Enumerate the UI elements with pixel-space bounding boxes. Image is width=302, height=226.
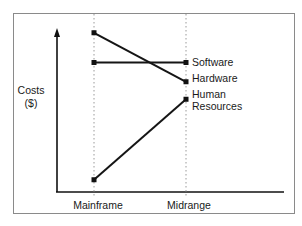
x-tick-midrange: Midrange: [167, 199, 211, 211]
data-point-software-midrange: [184, 60, 189, 65]
data-point-hardware-mainframe: [92, 30, 97, 35]
x-tick-mainframe: Mainframe: [73, 199, 123, 211]
data-point-software-mainframe: [92, 60, 97, 65]
chart-frame: [14, 14, 295, 214]
y-axis-arrow-icon: [54, 28, 60, 37]
series-label-human-resources-line2: Resources: [192, 100, 242, 112]
y-axis-label-line2: ($): [25, 97, 38, 109]
series-label-software: Software: [192, 56, 234, 68]
series-line-hardware: [94, 33, 186, 82]
series-label-human-resources-line1: Human: [192, 88, 226, 100]
data-point-hardware-midrange: [184, 79, 189, 84]
y-axis-label-line1: Costs: [18, 84, 45, 96]
series-label-hardware: Hardware: [192, 72, 238, 84]
series-layer: [92, 30, 189, 182]
data-point-human-resources-midrange: [184, 97, 189, 102]
data-point-human-resources-mainframe: [92, 177, 97, 182]
cost-comparison-chart: Costs ($) Mainframe Midrange Software Ha…: [0, 0, 302, 226]
series-line-human-resources: [94, 99, 186, 180]
